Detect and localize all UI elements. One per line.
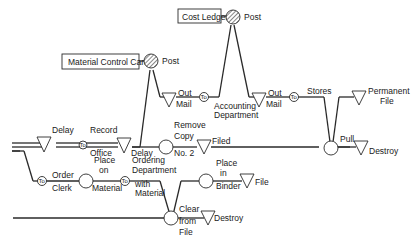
flow-process-chart: Delay To Record Office Delay Material Co… — [0, 0, 412, 248]
permanent-file-triangle — [352, 91, 366, 105]
operation-place-in-binder — [199, 174, 213, 188]
ordering-label-2: Department — [132, 165, 177, 175]
clear-label-3: File — [179, 227, 193, 237]
post-label-2: Post — [244, 12, 262, 22]
to-symbol-2: To — [201, 94, 208, 100]
place-label-3: Material — [92, 183, 122, 193]
delay-label-1: Delay — [52, 125, 74, 135]
order-label-2: Clerk — [52, 183, 73, 193]
to-symbol-1: To — [80, 142, 87, 148]
delay-triangle-2 — [117, 138, 131, 153]
pull-label: Pull — [340, 134, 354, 144]
binder-label-3: Binder — [216, 181, 241, 191]
destroy-label-2: Destroy — [214, 213, 244, 223]
destroy-label-1: Destroy — [369, 146, 399, 156]
remove-label-1: Remove — [174, 120, 206, 130]
mail-label-1: Mail — [176, 99, 192, 109]
file-label: File — [255, 177, 269, 187]
file-triangle — [240, 174, 254, 188]
stores-label: Stores — [307, 86, 332, 96]
binder-label-2: in — [220, 168, 227, 178]
binder-label-1: Place — [216, 158, 238, 168]
accounting-label-2: Department — [214, 110, 259, 120]
place-label-1: Place — [94, 155, 116, 165]
delay-triangle-1 — [37, 137, 51, 152]
to-symbol-5: To — [122, 178, 129, 184]
remove-label-2: Copy — [174, 131, 195, 141]
permanent-label-2: File — [380, 96, 394, 106]
ordering-label-1: Ordering — [132, 155, 165, 165]
record-label-1: Record — [90, 125, 118, 135]
to-symbol-3: To — [291, 94, 298, 100]
clear-label-1: Clear — [179, 204, 199, 214]
post-operation-2 — [226, 10, 240, 24]
to-symbol-4: To — [39, 178, 46, 184]
clear-label-2: from — [179, 216, 196, 226]
filed-triangle — [197, 140, 211, 154]
filed-label: Filed — [212, 136, 231, 146]
out-mail-triangle-1 — [162, 93, 176, 107]
order-label-1: Order — [52, 170, 74, 180]
operation-place-on-material — [79, 174, 93, 188]
permanent-label-1: Permanent — [368, 86, 410, 96]
material-control-card-label: Material Control Card — [68, 57, 149, 67]
post-label-1: Post — [162, 56, 180, 66]
mail-label-2: Mail — [266, 99, 282, 109]
post-operation-1 — [144, 54, 158, 68]
place-label-2: on — [99, 165, 109, 175]
ordering-label-4: Material — [135, 188, 165, 198]
operation-remove-copy — [159, 140, 173, 154]
destroy-triangle-1 — [354, 141, 368, 155]
operation-pull — [324, 141, 338, 155]
operation-clear-from-file — [164, 211, 178, 225]
remove-label-3: No. 2 — [174, 148, 195, 158]
